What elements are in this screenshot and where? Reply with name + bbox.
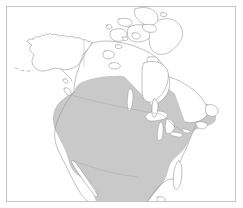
great-bear-lake-outline: [103, 51, 114, 59]
haida-gwaii-outline: [63, 79, 68, 83]
aleutian-islands: [15, 68, 30, 71]
florida-peninsula-outline: [173, 161, 182, 189]
figure-root: North America: [0, 0, 243, 208]
vancouver-island-outline: [64, 88, 71, 96]
prince-of-wales-island-outline: [132, 33, 140, 39]
great-slave-lake-outline: [109, 63, 120, 69]
north-america-map: [6, 6, 236, 202]
ellesmere-island-outline: [134, 8, 158, 26]
melville-island-outline: [118, 18, 133, 26]
map-frame: [6, 6, 236, 202]
yucatan-outline: [157, 197, 165, 202]
newfoundland-outline: [205, 105, 218, 117]
